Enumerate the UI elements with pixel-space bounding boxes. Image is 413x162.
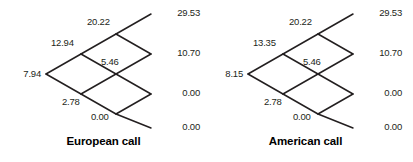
terminal-label-1: 29.53 [357,7,402,18]
node-label-upup2: 20.22 [87,16,110,27]
node-label-upup2: 20.22 [289,16,312,27]
node-label-up1: 12.94 [51,37,74,48]
node-label-mid2: 5.46 [101,56,119,67]
node-label-downdown2: 0.00 [91,111,109,122]
american-call-caption: American call [202,135,409,147]
terminal-label-3: 0.00 [357,87,402,98]
node-label-root: 8.15 [202,68,243,79]
terminal-label-1: 29.53 [155,7,200,18]
terminal-label-3: 0.00 [155,87,200,98]
terminal-label-4: 0.00 [155,121,200,132]
terminal-label-2: 10.70 [357,47,402,58]
node-label-downdown2: 0.00 [293,111,311,122]
european-call-tree: 7.94 12.94 2.78 20.22 5.46 0.00 29.53 10… [0,0,207,162]
terminal-label-4: 0.00 [357,121,402,132]
node-label-root: 7.94 [0,68,41,79]
node-label-down1: 2.78 [62,96,80,107]
european-call-caption: European call [0,135,207,147]
node-label-mid2: 5.46 [303,56,321,67]
node-label-up1: 13.35 [253,37,276,48]
american-call-tree: 8.15 13.35 2.78 20.22 5.46 0.00 29.53 10… [202,0,409,162]
terminal-label-2: 10.70 [155,47,200,58]
binomial-lattice-figure: 7.94 12.94 2.78 20.22 5.46 0.00 29.53 10… [0,0,413,162]
node-label-down1: 2.78 [264,96,282,107]
